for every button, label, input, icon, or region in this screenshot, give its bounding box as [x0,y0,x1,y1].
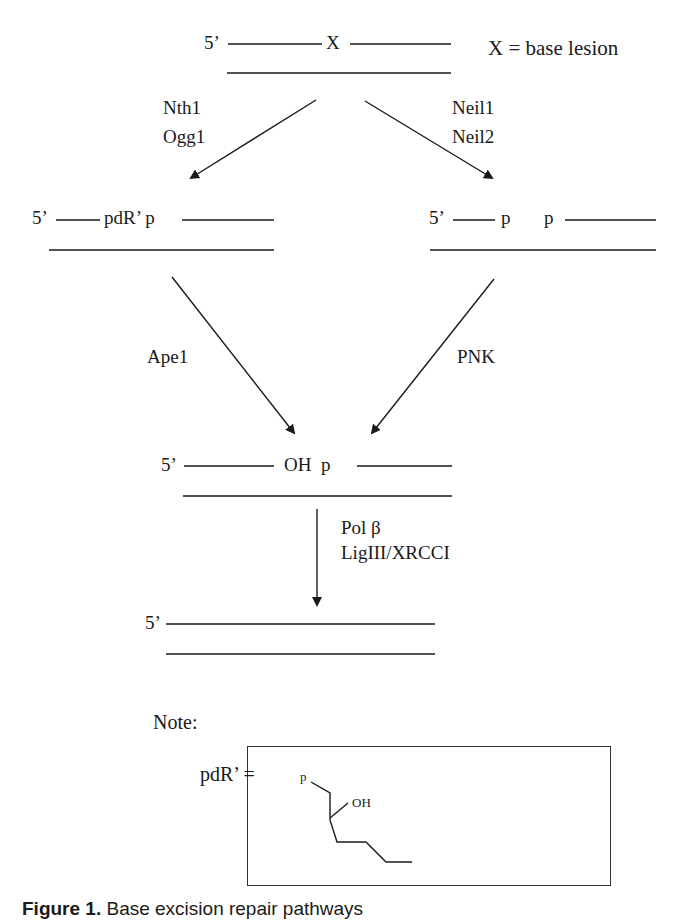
pdr-definition: pdR’ = [200,764,255,784]
lesion-label: X [326,33,340,52]
enzyme-neil2: Neil2 [452,127,494,146]
enzyme-nth1: Nth1 [163,98,201,117]
enzyme-pol-beta: Pol β [341,518,381,537]
enzyme-pnk: PNK [457,347,495,366]
enzyme-ligiii-xrcci: LigIII/XRCCI [341,543,450,562]
structure-p-label: p [300,770,307,783]
enzyme-ape1: Ape1 [147,347,188,366]
figure-caption: Figure 1. Base excision repair pathways [22,898,363,920]
right-intermediate-p2: p [544,208,554,227]
legend-text: X = base lesion [488,38,618,59]
note-label: Note: [153,712,197,732]
right-five-prime-label: 5’ [429,208,445,227]
note-box [247,746,611,886]
merged-intermediate-label: OH p [284,455,330,474]
right-intermediate-p1: p [501,208,511,227]
left-five-prime-label: 5’ [32,208,48,227]
structure-oh-label: OH [352,796,371,809]
caption-text: Base excision repair pathways [106,898,363,919]
merged-five-prime-label: 5’ [161,455,177,474]
product-five-prime-label: 5’ [145,613,161,632]
left-intermediate-label: pdR’ p [104,208,155,227]
enzyme-neil1: Neil1 [452,98,494,117]
start-five-prime-label: 5’ [204,33,220,52]
caption-prefix: Figure 1. [22,898,101,919]
enzyme-ogg1: Ogg1 [163,127,205,146]
